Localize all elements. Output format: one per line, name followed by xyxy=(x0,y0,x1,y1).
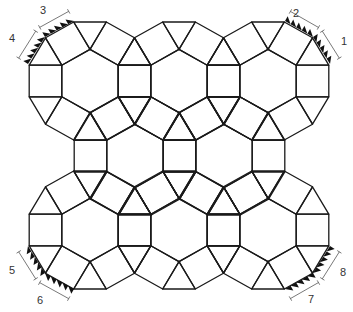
dimension-tick xyxy=(34,30,38,33)
dimension-tick xyxy=(289,296,291,300)
dimension-tick xyxy=(38,25,40,29)
square xyxy=(179,171,224,214)
dimension-tick xyxy=(320,30,324,33)
square xyxy=(29,65,62,97)
dimension-tick xyxy=(289,9,291,13)
triangle xyxy=(118,97,151,124)
triangle xyxy=(74,113,107,140)
sawtooth-edges xyxy=(23,16,334,294)
hexagon xyxy=(151,49,207,112)
square xyxy=(90,171,135,214)
triangle xyxy=(163,22,196,49)
triangle xyxy=(252,113,285,140)
square xyxy=(90,246,135,289)
square xyxy=(207,65,240,97)
square xyxy=(224,97,269,140)
hexagon xyxy=(62,49,118,112)
triangle xyxy=(208,188,241,215)
square xyxy=(296,214,329,246)
triangle xyxy=(118,187,151,214)
triangle xyxy=(296,38,329,65)
triangle xyxy=(163,172,196,199)
hexagon xyxy=(240,198,296,261)
tiling-polygons xyxy=(29,22,329,289)
square xyxy=(74,140,107,172)
square xyxy=(91,97,136,140)
sawtooth-tooth xyxy=(48,29,57,34)
dimension-tick xyxy=(337,251,341,254)
hexagon xyxy=(240,49,296,112)
hexagon xyxy=(107,124,163,187)
triangle xyxy=(74,22,107,49)
triangle xyxy=(252,22,285,49)
triangle xyxy=(74,113,107,140)
triangle xyxy=(29,187,62,214)
edge-label-6: 6 xyxy=(37,294,43,306)
dimension-tick xyxy=(317,280,319,284)
edge-label-4: 4 xyxy=(9,32,15,44)
square xyxy=(118,65,151,97)
square xyxy=(135,172,180,215)
triangle xyxy=(207,246,240,273)
triangle xyxy=(208,97,241,124)
triangle xyxy=(296,97,329,124)
square xyxy=(163,140,196,172)
square xyxy=(207,214,240,246)
edge-label-3: 3 xyxy=(40,4,46,16)
square xyxy=(135,97,180,140)
triangle xyxy=(207,38,240,65)
square xyxy=(180,172,225,215)
dimension-tick xyxy=(320,278,324,281)
square xyxy=(118,65,151,97)
edge-label-1: 1 xyxy=(341,35,347,47)
hexagon xyxy=(151,198,207,261)
square xyxy=(163,140,196,172)
square xyxy=(91,172,136,215)
dimension-tick xyxy=(17,57,21,60)
square xyxy=(224,246,269,289)
triangle xyxy=(163,171,196,198)
square xyxy=(296,65,329,97)
tiling-diagram: 12345678 xyxy=(0,0,353,312)
hexagon xyxy=(62,198,118,261)
dimension-tick xyxy=(17,251,21,254)
triangle xyxy=(118,38,151,65)
edge-label-8: 8 xyxy=(340,266,346,278)
triangle xyxy=(163,113,196,140)
triangle xyxy=(207,97,240,124)
square xyxy=(224,171,269,214)
triangle xyxy=(207,187,240,214)
square xyxy=(46,246,91,289)
triangle xyxy=(118,187,151,214)
dimension-tick xyxy=(67,296,69,300)
triangle xyxy=(252,262,285,289)
triangle xyxy=(252,171,285,198)
triangle xyxy=(163,113,196,140)
square xyxy=(268,171,313,214)
triangle xyxy=(163,113,196,140)
triangle xyxy=(74,172,107,199)
square xyxy=(179,246,224,289)
triangle xyxy=(252,172,285,199)
triangle xyxy=(29,246,62,273)
square xyxy=(207,214,240,246)
dimension-tick xyxy=(34,278,38,281)
triangle xyxy=(207,187,240,214)
dimension-tick xyxy=(337,57,341,60)
hexagon xyxy=(196,124,252,187)
edge-label-5: 5 xyxy=(9,264,15,276)
triangle xyxy=(119,97,152,124)
edge-label-2: 2 xyxy=(293,7,299,19)
square xyxy=(90,22,135,65)
square xyxy=(29,214,62,246)
square xyxy=(90,97,135,140)
triangle xyxy=(119,188,152,215)
square xyxy=(207,65,240,97)
triangle xyxy=(296,187,329,214)
triangle xyxy=(207,97,240,124)
sawtooth-tooth xyxy=(313,34,318,42)
square xyxy=(46,97,91,140)
triangle xyxy=(163,262,196,289)
triangle xyxy=(163,172,196,199)
square xyxy=(179,97,224,140)
